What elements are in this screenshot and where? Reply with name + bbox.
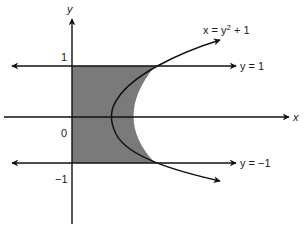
label-y-equals-neg1: y = −1 <box>240 157 271 169</box>
diagram-canvas: y x 1 0 −1 y = 1 y = −1 x = y2 + 1 <box>0 0 305 239</box>
label-y-equals-1: y = 1 <box>240 60 264 72</box>
label-parabola-equation: x = y2 + 1 <box>203 23 250 36</box>
shaded-region <box>72 66 155 163</box>
parabola-label-suffix: + 1 <box>231 24 250 36</box>
tick-label-0: 0 <box>61 127 67 139</box>
y-axis-label: y <box>66 3 74 15</box>
tick-label-neg1: −1 <box>55 173 68 185</box>
parabola-label-prefix: x = y <box>203 24 227 36</box>
tick-label-1: 1 <box>61 51 67 63</box>
x-axis-label: x <box>292 111 299 123</box>
